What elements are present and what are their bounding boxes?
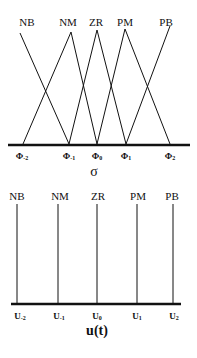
membership-nm [23, 32, 97, 144]
axis-title-u: u(t) [86, 323, 108, 339]
membership-zr [69, 30, 126, 144]
fuzzy-membership-diagram: NB NM ZR PM PB Φ-2 Φ-1 Φ0 Φ1 Φ2 σ NB NM … [0, 0, 197, 358]
set-label-pm: PM [130, 190, 146, 202]
tick-phi-neg1: Φ-1 [63, 151, 75, 161]
membership-pm [97, 29, 170, 144]
tick-u-1: U1 [132, 311, 142, 321]
set-label-zr: ZR [89, 16, 104, 28]
output-singleton-chart: NB NM ZR PM PB U-2 U-1 U0 U1 U2 u(t) [9, 190, 181, 339]
tick-u-2: U2 [169, 311, 179, 321]
tick-phi-1: Φ1 [121, 151, 131, 161]
membership-nb [20, 33, 69, 144]
tick-u-0: U0 [92, 311, 102, 321]
tick-u-neg2: U-2 [14, 311, 26, 321]
set-label-nm: NM [59, 16, 77, 28]
set-label-nb: NB [19, 16, 34, 28]
input-membership-chart: NB NM ZR PM PB Φ-2 Φ-1 Φ0 Φ1 Φ2 σ [8, 16, 190, 179]
set-label-pm: PM [117, 16, 133, 28]
set-label-pb: PB [165, 190, 178, 202]
set-label-zr: ZR [91, 190, 106, 202]
set-label-nm: NM [51, 190, 69, 202]
tick-phi-2: Φ2 [165, 151, 175, 161]
set-label-nb: NB [9, 190, 24, 202]
tick-phi-0: Φ0 [92, 151, 102, 161]
tick-phi-neg2: Φ-2 [16, 151, 28, 161]
tick-u-neg1: U-1 [53, 311, 65, 321]
axis-title-sigma: σ [90, 164, 98, 179]
set-label-pb: PB [159, 16, 172, 28]
